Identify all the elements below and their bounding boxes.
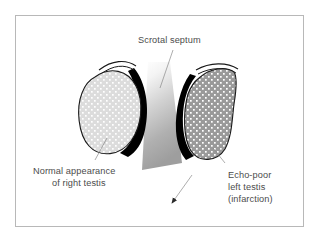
diagram-canvas: Scrotal septum Normal appearance of righ… bbox=[0, 0, 320, 243]
label-left-testis-line1: Echo-poor bbox=[228, 170, 271, 180]
figure-root: Scrotal septum Normal appearance of righ… bbox=[0, 0, 320, 243]
septum-band bbox=[142, 62, 182, 170]
right-testis-structure bbox=[79, 61, 147, 157]
scrotal-septum-structure bbox=[142, 62, 182, 170]
label-right-testis-line1: Normal appearance bbox=[33, 166, 115, 176]
left-testis-structure bbox=[176, 64, 238, 160]
septum-pointer-arrow bbox=[172, 175, 192, 203]
label-right-testis-line2: of right testis bbox=[52, 178, 106, 188]
label-left-testis-line2: left testis bbox=[228, 182, 266, 192]
label-left-testis-line3: (infarction) bbox=[228, 194, 273, 204]
left-testis-body bbox=[185, 69, 237, 160]
right-upper-arc-outer bbox=[99, 61, 136, 70]
label-scrotal-septum: Scrotal septum bbox=[138, 35, 201, 45]
